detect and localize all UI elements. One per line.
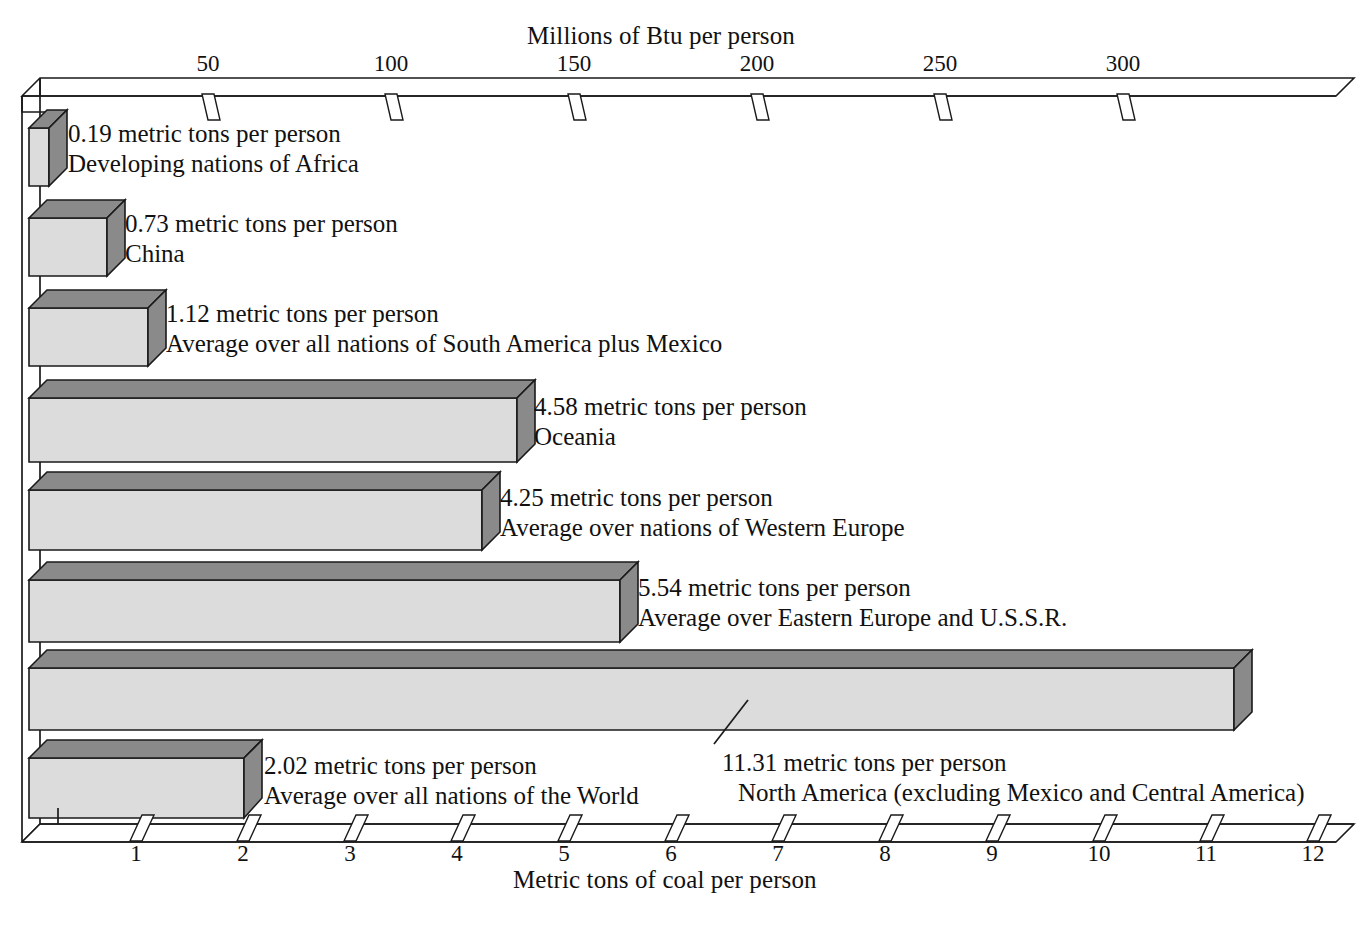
bottom-tick-label-8: 8 [879, 841, 891, 867]
bar-label-china: 0.73 metric tons per person China [125, 209, 398, 269]
bar-developing-nations-of-africa[interactable] [29, 110, 67, 186]
bar-name-label: North America (excluding Mexico and Cent… [722, 778, 1304, 808]
bottom-tick-label-5: 5 [558, 841, 570, 867]
bottom-tick-label-6: 6 [665, 841, 677, 867]
bar-china[interactable] [29, 200, 125, 276]
bottom-tick-label-9: 9 [986, 841, 998, 867]
bar-label-western-europe: 4.25 metric tons per person Average over… [500, 483, 905, 543]
bar-value-label: 2.02 metric tons per person [264, 751, 639, 781]
bar-name-label: China [125, 239, 398, 269]
bar-label-world-average: 2.02 metric tons per person Average over… [264, 751, 639, 811]
bar-name-label: Average over all nations of the World [264, 781, 639, 811]
top-tick-label-50: 50 [197, 51, 220, 77]
chart-canvas: .face { fill:#dcdcdc; stroke:#1a1a1a; st… [0, 0, 1362, 925]
bar-world-average[interactable] [29, 740, 262, 818]
top-tick-label-100: 100 [374, 51, 409, 77]
bar-value-label: 5.54 metric tons per person [638, 573, 1067, 603]
bar-name-label: Oceania [534, 422, 807, 452]
bar-south-america-plus-mexico[interactable] [29, 290, 166, 366]
top-axis [22, 78, 1354, 120]
bar-western-europe[interactable] [29, 472, 500, 550]
top-axis-title: Millions of Btu per person [527, 22, 795, 50]
bar-name-label: Average over nations of Western Europe [500, 513, 905, 543]
top-tick-label-150: 150 [557, 51, 592, 77]
bottom-tick-label-3: 3 [344, 841, 356, 867]
bar-oceania[interactable] [29, 380, 535, 462]
bar-value-label: 0.19 metric tons per person [68, 119, 359, 149]
top-tick-label-250: 250 [923, 51, 958, 77]
bar-value-label: 1.12 metric tons per person [166, 299, 722, 329]
bottom-tick-label-4: 4 [451, 841, 463, 867]
bar-label-north-america: 11.31 metric tons per person North Ameri… [722, 748, 1304, 808]
bar-label-developing-nations-of-africa: 0.19 metric tons per person Developing n… [68, 119, 359, 179]
bar-label-oceania: 4.58 metric tons per person Oceania [534, 392, 807, 452]
bar-label-eastern-europe-ussr: 5.54 metric tons per person Average over… [638, 573, 1067, 633]
bar-north-america[interactable] [29, 650, 1252, 730]
bar-value-label: 4.58 metric tons per person [534, 392, 807, 422]
bar-name-label: Average over Eastern Europe and U.S.S.R. [638, 603, 1067, 633]
bar-value-label: 0.73 metric tons per person [125, 209, 398, 239]
bottom-tick-label-2: 2 [237, 841, 249, 867]
bottom-tick-label-12: 12 [1302, 841, 1325, 867]
bottom-tick-label-11: 11 [1195, 841, 1217, 867]
bar-name-label: Average over all nations of South Americ… [166, 329, 722, 359]
bar-label-south-america-plus-mexico: 1.12 metric tons per person Average over… [166, 299, 722, 359]
bottom-tick-label-7: 7 [772, 841, 784, 867]
top-tick-label-300: 300 [1106, 51, 1141, 77]
bottom-tick-label-1: 1 [130, 841, 142, 867]
top-axis-ticks [202, 94, 1135, 120]
bar-value-label: 4.25 metric tons per person [500, 483, 905, 513]
bottom-axis-title: Metric tons of coal per person [513, 866, 817, 894]
top-tick-label-200: 200 [740, 51, 775, 77]
bar-value-label: 11.31 metric tons per person [722, 748, 1304, 778]
bar-name-label: Developing nations of Africa [68, 149, 359, 179]
bar-eastern-europe-ussr[interactable] [29, 562, 638, 642]
bottom-tick-label-10: 10 [1088, 841, 1111, 867]
